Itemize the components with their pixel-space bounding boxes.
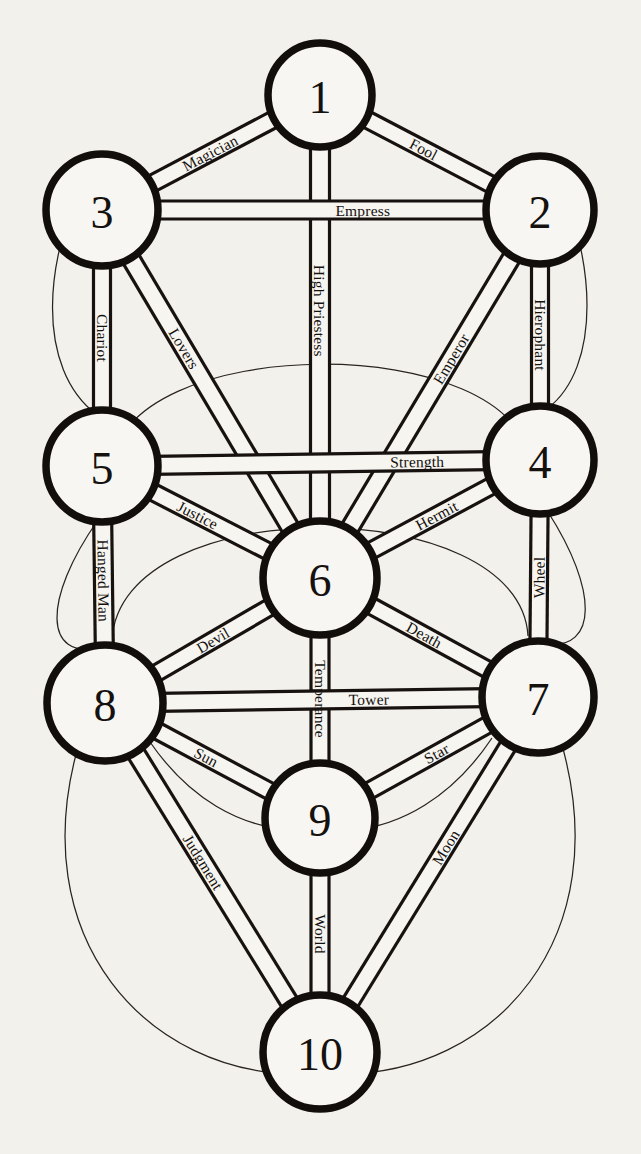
p-high-priestess-label: High Priestess (311, 265, 328, 357)
sephira-9[interactable]: 9 (265, 763, 375, 873)
p-moon-band-fill (339, 735, 519, 1013)
p-moon-label: Moon (429, 827, 463, 868)
p-empress[interactable] (152, 201, 492, 219)
p-chariot-label: Chariot (94, 314, 111, 362)
p-empress-band-fill (152, 201, 492, 219)
p-world-label: World (312, 914, 329, 953)
p-hierophant-label: Hierophant (532, 299, 549, 371)
sephira-5[interactable]: 5 (46, 410, 158, 522)
sephira-6[interactable]: 6 (263, 521, 377, 635)
sephira-3[interactable]: 3 (46, 154, 158, 266)
p-judgment-label: Judgment (180, 831, 227, 893)
sephira-2[interactable]: 2 (486, 156, 594, 264)
p-justice-label: Justice (174, 498, 221, 533)
tree-of-life-canvas: 12345678910 FoolMagicianHigh PriestessEm… (0, 0, 641, 1154)
sephira-8[interactable]: 8 (47, 645, 163, 761)
sephira-3-number: 3 (91, 187, 114, 238)
sephira-2-number: 2 (529, 187, 552, 238)
p-tower-label: Tower (349, 691, 390, 709)
p-moon-edge-a (339, 735, 504, 1004)
p-strength-label: Strength (390, 453, 444, 471)
sephira-8-number: 8 (94, 680, 117, 731)
tree-of-life-diagram: 12345678910 FoolMagicianHigh PriestessEm… (0, 0, 641, 1154)
arc-right-lower (546, 512, 585, 644)
p-devil-edge-b (154, 611, 280, 684)
sephira-5-number: 5 (91, 443, 114, 494)
sephira-10[interactable]: 10 (263, 995, 377, 1109)
sephira-7-number: 7 (527, 674, 550, 725)
sephira-1-number: 1 (309, 72, 332, 123)
p-lovers-label: Lovers (166, 325, 203, 372)
sephira-4[interactable]: 4 (486, 406, 594, 514)
p-temperance-label: Temperance (312, 660, 329, 738)
sephira-10-number: 10 (297, 1029, 343, 1080)
p-hanged-man-label: Hanged Man (94, 539, 112, 622)
sephira-9-number: 9 (309, 795, 332, 846)
sephira-4-number: 4 (529, 437, 552, 488)
p-hermit-label: Hermit (413, 497, 461, 534)
p-death-label: Death (404, 618, 446, 651)
sephira-7[interactable]: 7 (482, 641, 594, 753)
sephira-6-number: 6 (309, 555, 332, 606)
p-moon[interactable] (339, 735, 519, 1013)
p-death-edge-a (361, 610, 490, 681)
sephira-1[interactable]: 1 (268, 43, 372, 147)
p-empress-label: Empress (335, 202, 390, 219)
p-wheel-label: Wheel (530, 557, 547, 599)
